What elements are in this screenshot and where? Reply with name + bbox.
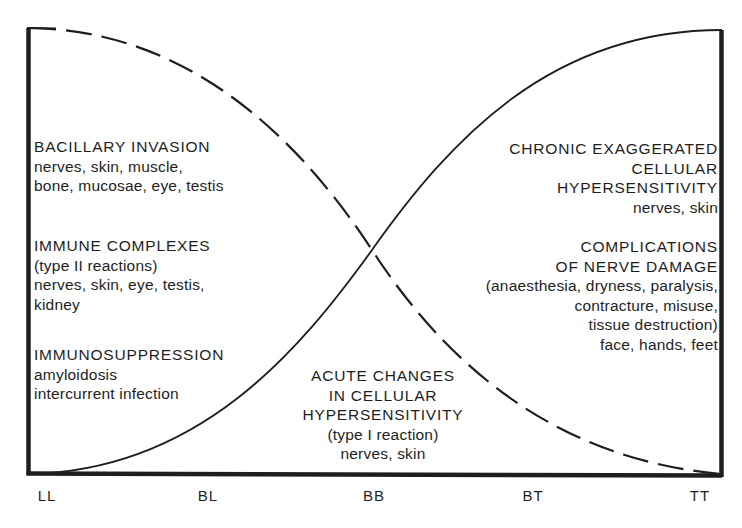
acute-changes-heading: IN CELLULAR xyxy=(283,386,483,406)
chronic-hypersensitivity-heading: CELLULAR xyxy=(509,159,718,179)
immune-complexes-heading: IMMUNE COMPLEXES xyxy=(34,236,210,256)
nerve-damage-line: (anaesthesia, dryness, paralysis, xyxy=(486,276,718,296)
immunosuppression-block: IMMUNOSUPPRESSION amyloidosis intercurre… xyxy=(34,345,224,404)
nerve-damage-heading: COMPLICATIONS xyxy=(486,237,718,257)
immunosuppression-line: amyloidosis xyxy=(34,365,224,385)
acute-changes-block: ACUTE CHANGES IN CELLULAR HYPERSENSITIVI… xyxy=(283,366,483,464)
nerve-damage-line: tissue destruction) xyxy=(486,315,718,335)
immune-complexes-line: nerves, skin, eye, testis, xyxy=(34,275,210,295)
nerve-damage-line: face, hands, feet xyxy=(486,335,718,355)
x-tick-tt: TT xyxy=(690,487,710,504)
immune-complexes-block: IMMUNE COMPLEXES (type II reactions) ner… xyxy=(34,236,210,314)
bacillary-invasion-line: nerves, skin, muscle, xyxy=(34,157,224,177)
immune-complexes-line: (type II reactions) xyxy=(34,256,210,276)
bacillary-invasion-block: BACILLARY INVASION nerves, skin, muscle,… xyxy=(34,137,224,196)
frame-bottom-axis xyxy=(27,474,723,476)
chronic-hypersensitivity-block: CHRONIC EXAGGERATED CELLULAR HYPERSENSIT… xyxy=(509,139,718,217)
nerve-damage-block: COMPLICATIONS OF NERVE DAMAGE (anaesthes… xyxy=(486,237,718,354)
chronic-hypersensitivity-heading: HYPERSENSITIVITY xyxy=(509,178,718,198)
bacillary-invasion-heading: BACILLARY INVASION xyxy=(34,137,224,157)
acute-changes-heading: ACUTE CHANGES xyxy=(283,366,483,386)
bacillary-invasion-line: bone, mucosae, eye, testis xyxy=(34,176,224,196)
immune-complexes-line: kidney xyxy=(34,295,210,315)
acute-changes-line: nerves, skin xyxy=(283,444,483,464)
x-tick-bt: BT xyxy=(522,487,543,504)
x-tick-bl: BL xyxy=(198,487,218,504)
x-tick-ll: LL xyxy=(38,487,57,504)
nerve-damage-heading: OF NERVE DAMAGE xyxy=(486,257,718,277)
acute-changes-heading: HYPERSENSITIVITY xyxy=(283,405,483,425)
chronic-hypersensitivity-heading: CHRONIC EXAGGERATED xyxy=(509,139,718,159)
immunosuppression-line: intercurrent infection xyxy=(34,384,224,404)
chronic-hypersensitivity-line: nerves, skin xyxy=(509,198,718,218)
x-tick-bb: BB xyxy=(363,487,385,504)
acute-changes-line: (type I reaction) xyxy=(283,425,483,445)
immunosuppression-heading: IMMUNOSUPPRESSION xyxy=(34,345,224,365)
nerve-damage-line: contracture, misuse, xyxy=(486,296,718,316)
